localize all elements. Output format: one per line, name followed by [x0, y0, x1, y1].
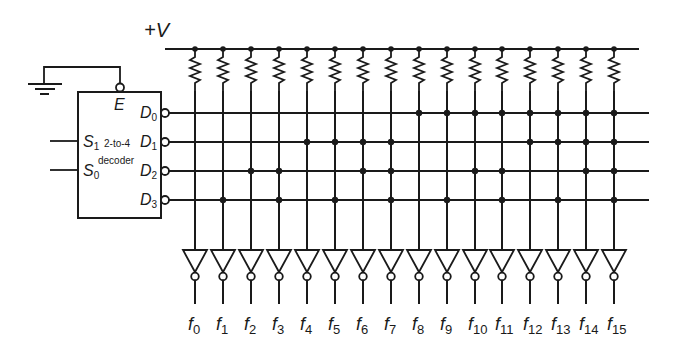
- column-f15: f15: [602, 46, 626, 337]
- row-d3: [161, 196, 648, 204]
- connection-dot: [276, 168, 282, 174]
- connection-dot: [416, 110, 422, 116]
- inverter-bubble: [219, 273, 227, 281]
- inverter-icon: [239, 250, 263, 272]
- resistor-icon: [414, 49, 424, 92]
- inverter-bubble: [582, 273, 590, 281]
- column-f7: f7: [379, 46, 403, 337]
- column-f3: f3: [267, 46, 291, 337]
- connection-dot: [276, 197, 282, 203]
- connection-dot: [555, 197, 561, 203]
- connection-dot: [583, 110, 589, 116]
- d3-label: D3: [140, 191, 158, 210]
- resistor-icon: [470, 49, 480, 92]
- column-f9: f9: [435, 46, 459, 337]
- connection-dot: [304, 139, 310, 145]
- connection-dot: [611, 139, 617, 145]
- inverter-bubble: [191, 273, 199, 281]
- connection-dot: [388, 168, 394, 174]
- output-bubble: [161, 138, 169, 146]
- inverter-icon: [574, 250, 598, 272]
- inverter-bubble: [303, 273, 311, 281]
- s1-label: S1: [83, 133, 100, 152]
- connection-dot: [248, 168, 254, 174]
- inverter-icon: [323, 250, 347, 272]
- d2-label: D2: [140, 162, 158, 181]
- column-f1: f1: [211, 46, 235, 337]
- output-bubble: [161, 167, 169, 175]
- inverter-bubble: [331, 273, 339, 281]
- inverter-icon: [267, 250, 291, 272]
- inverter-bubble: [498, 273, 506, 281]
- resistor-icon: [609, 49, 619, 92]
- resistor-icon: [330, 49, 340, 92]
- output-label-f1: f1: [216, 314, 228, 337]
- inverter-bubble: [247, 273, 255, 281]
- resistor-icon: [497, 49, 507, 92]
- inverter-icon: [183, 250, 207, 272]
- connection-dot: [555, 110, 561, 116]
- row-d2: [161, 167, 648, 175]
- resistor-icon: [386, 49, 396, 92]
- column-f11: f11: [490, 46, 514, 337]
- resistor-icon: [190, 49, 200, 92]
- inverter-icon: [546, 250, 570, 272]
- decoder-output-rows: [161, 109, 648, 204]
- connection-dot: [583, 168, 589, 174]
- resistor-icon: [581, 49, 591, 92]
- connection-dot: [611, 168, 617, 174]
- resistor-icon: [442, 49, 452, 92]
- output-label-f0: f0: [188, 314, 200, 337]
- output-label-f10: f10: [468, 314, 487, 337]
- decoder-block: E S1 S0 2-to-4 decoder D0 D1 D2 D3: [50, 84, 161, 219]
- inverter-bubble: [526, 273, 534, 281]
- supply-label: +V: [144, 19, 171, 41]
- column-f12: f12: [518, 46, 542, 337]
- enable-bubble: [116, 84, 124, 92]
- inverter-icon: [295, 250, 319, 272]
- connection-dot: [360, 168, 366, 174]
- connection-dot: [499, 110, 505, 116]
- inverter-bubble: [610, 273, 618, 281]
- connection-dot: [527, 139, 533, 145]
- inverter-icon: [351, 250, 375, 272]
- pla-diagram: +V E S1 S0 2-to-4 decoder D0 D1 D2 D3 f0…: [0, 0, 677, 355]
- connection-dot: [444, 110, 450, 116]
- connection-dot: [499, 168, 505, 174]
- row-d0: [161, 109, 648, 117]
- inverter-bubble: [554, 273, 562, 281]
- resistor-icon: [553, 49, 563, 92]
- output-bubble: [161, 196, 169, 204]
- output-label-f2: f2: [244, 314, 256, 337]
- output-label-f7: f7: [384, 314, 396, 337]
- output-label-f15: f15: [607, 314, 626, 337]
- column-f6: f6: [351, 46, 375, 337]
- inverter-bubble: [275, 273, 283, 281]
- resistor-icon: [358, 49, 368, 92]
- connection-dot: [388, 139, 394, 145]
- inverter-icon: [518, 250, 542, 272]
- row-d1: [161, 138, 648, 146]
- inverter-icon: [602, 250, 626, 272]
- column-f2: f2: [239, 46, 263, 337]
- inverter-bubble: [387, 273, 395, 281]
- connection-dot: [555, 139, 561, 145]
- connection-dot: [611, 197, 617, 203]
- column-f10: f10: [463, 46, 487, 337]
- inverter-bubble: [359, 273, 367, 281]
- ground-icon: [29, 67, 120, 94]
- inverter-icon: [435, 250, 459, 272]
- output-label-f3: f3: [272, 314, 284, 337]
- column-f4: f4: [295, 46, 319, 337]
- column-f8: f8: [407, 46, 431, 337]
- connection-dot: [332, 197, 338, 203]
- connection-dot: [472, 110, 478, 116]
- connection-dot: [611, 110, 617, 116]
- output-label-f8: f8: [412, 314, 424, 337]
- d1-label: D1: [140, 133, 158, 152]
- connection-dot: [583, 139, 589, 145]
- resistor-icon: [246, 49, 256, 92]
- decoder-type-line2: decoder: [98, 155, 135, 166]
- connection-dot: [499, 197, 505, 203]
- connection-dot: [388, 197, 394, 203]
